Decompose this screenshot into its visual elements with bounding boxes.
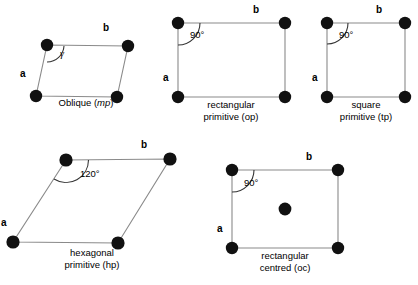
- rectangular-primitive-caption: rectangular primitive (op): [204, 99, 259, 122]
- lattice-node: [59, 153, 72, 166]
- square-primitive-angle-label: 90°: [339, 29, 353, 40]
- rectangular-primitive-a-axis-label: a: [163, 72, 169, 83]
- lattice-node: [399, 17, 411, 29]
- lattice-node: [321, 17, 333, 29]
- lattice-node: [279, 91, 291, 103]
- oblique-cell-outline: [36, 45, 128, 97]
- rectangular-centred-caption-line2: centred (oc): [260, 262, 311, 273]
- lattice-node: [399, 91, 411, 103]
- rectangular-centred-caption-line1: rectangular: [261, 250, 309, 261]
- oblique-caption-close: ): [110, 97, 113, 108]
- cell-oblique: [30, 39, 134, 103]
- oblique-caption-text: Oblique (: [59, 97, 98, 108]
- rectangular-primitive-b-axis-label: b: [253, 4, 259, 15]
- hexagonal-primitive-caption: hexagonal primitive (hp): [65, 247, 120, 270]
- hexagonal-primitive-a-axis-label: a: [1, 217, 7, 228]
- lattice-node: [172, 17, 184, 29]
- lattice-node: [122, 40, 134, 52]
- hexagonal-primitive-caption-line1: hexagonal: [70, 247, 114, 258]
- lattice-node: [332, 242, 344, 254]
- square-primitive-caption: square primitive (tp): [340, 99, 392, 122]
- square-primitive-caption-line2: primitive (tp): [340, 111, 392, 122]
- square-primitive-a-axis-label: a: [312, 72, 318, 83]
- lattice-node: [279, 17, 291, 29]
- lattice-node: [6, 235, 19, 248]
- lattice-node: [163, 152, 176, 165]
- rectangular-primitive-caption-line1: rectangular: [207, 99, 255, 110]
- oblique-caption: Oblique (mp): [59, 97, 114, 109]
- oblique-caption-symbol: mp: [97, 97, 110, 108]
- rectangular-centred-angle-label: 90°: [244, 177, 258, 188]
- lattice-node: [172, 91, 184, 103]
- lattice-node: [226, 164, 238, 176]
- hexagonal-primitive-angle-label: 120°: [80, 168, 100, 179]
- oblique-b-axis-label: b: [103, 22, 109, 33]
- rectangular-centred-caption: rectangular centred (oc): [260, 250, 311, 273]
- bravais-lattice-diagram: [0, 0, 418, 285]
- rectangular-centred-b-axis-label: b: [306, 151, 312, 162]
- lattice-node: [30, 90, 42, 102]
- lattice-node: [332, 164, 344, 176]
- square-primitive-b-axis-label: b: [376, 4, 382, 15]
- lattice-centre-node: [279, 203, 292, 216]
- lattice-node: [321, 91, 333, 103]
- oblique-gamma-angle-label: γ: [60, 48, 64, 59]
- rectangular-primitive-angle-label: 90°: [190, 29, 204, 40]
- cell-hexagonal-primitive: [6, 152, 176, 249]
- hexagonal-primitive-caption-line2: primitive (hp): [65, 259, 120, 270]
- oblique-a-axis-label: a: [20, 68, 26, 79]
- square-primitive-caption-line1: square: [351, 99, 380, 110]
- rectangular-centred-a-axis-label: a: [217, 223, 223, 234]
- hexagonal-primitive-b-axis-label: b: [141, 139, 147, 150]
- cell-square-primitive: [321, 17, 411, 103]
- lattice-node: [226, 242, 238, 254]
- rectangular-primitive-caption-line2: primitive (op): [204, 111, 259, 122]
- lattice-node: [41, 39, 53, 51]
